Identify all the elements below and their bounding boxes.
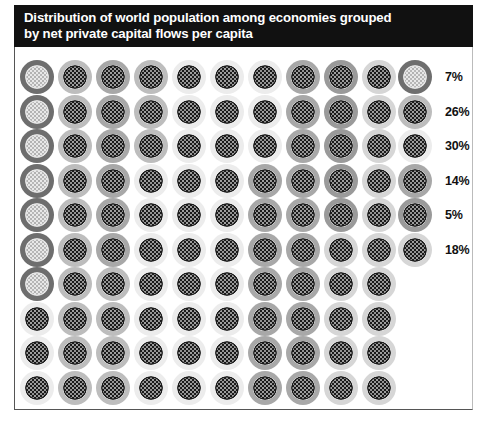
population-dot <box>286 60 320 94</box>
dot-core <box>25 341 49 365</box>
dot-cell <box>208 371 246 406</box>
population-dot <box>248 129 282 163</box>
legend-item-7pct[interactable]: 7% <box>398 60 480 95</box>
matrix-row <box>18 336 398 371</box>
legend-item-18pct[interactable]: 18% <box>398 233 480 268</box>
population-dot <box>58 371 92 405</box>
dot-cell <box>132 198 170 233</box>
dot-cell <box>246 95 284 130</box>
dot-cell <box>208 233 246 268</box>
dot-core <box>291 341 315 365</box>
dot-cell <box>284 198 322 233</box>
legend-item-5pct[interactable]: 5% <box>398 198 480 233</box>
dot-core <box>177 307 201 331</box>
dot-core <box>177 100 201 124</box>
dot-cell <box>18 60 56 95</box>
matrix-row <box>18 198 398 233</box>
dot-cell <box>170 60 208 95</box>
dot-cell <box>56 267 94 302</box>
dot-core <box>101 376 125 400</box>
dot-core <box>63 307 87 331</box>
dot-cell <box>132 267 170 302</box>
dot-cell <box>284 60 322 95</box>
population-dot <box>96 302 130 336</box>
population-dot <box>362 198 396 232</box>
population-dot <box>20 129 54 163</box>
dot-core <box>25 376 49 400</box>
dot-cell <box>132 233 170 268</box>
population-dot <box>324 233 358 267</box>
dot-cell <box>322 164 360 199</box>
dot-cell <box>360 164 398 199</box>
dot-core <box>25 169 49 193</box>
population-dot <box>172 233 206 267</box>
dot-cell <box>170 129 208 164</box>
legend-swatch-icon <box>398 129 432 163</box>
dot-core <box>215 203 239 227</box>
population-dot <box>96 336 130 370</box>
population-dot <box>362 302 396 336</box>
dot-cell <box>360 371 398 406</box>
dot-core <box>177 238 201 262</box>
dot-cell <box>18 95 56 130</box>
dot-core <box>63 341 87 365</box>
dot-cell <box>132 164 170 199</box>
matrix-row <box>18 129 398 164</box>
dot-cell <box>94 198 132 233</box>
dot-cell <box>208 129 246 164</box>
dot-core <box>25 134 49 158</box>
dot-core <box>403 169 427 193</box>
dot-cell <box>208 60 246 95</box>
dot-core <box>291 65 315 89</box>
population-dot <box>96 267 130 301</box>
dot-core <box>139 341 163 365</box>
dot-core <box>291 203 315 227</box>
dot-core <box>101 169 125 193</box>
dot-cell <box>18 164 56 199</box>
dot-cell <box>94 233 132 268</box>
population-dot <box>20 60 54 94</box>
dot-core <box>403 134 427 158</box>
dot-core <box>291 238 315 262</box>
title-banner: Distribution of world population among e… <box>14 5 473 47</box>
dot-core <box>291 134 315 158</box>
dot-core <box>177 203 201 227</box>
dot-core <box>329 65 353 89</box>
dot-cell <box>322 302 360 337</box>
population-dot <box>210 336 244 370</box>
dot-cell <box>56 198 94 233</box>
legend-item-26pct[interactable]: 26% <box>398 95 480 130</box>
dot-cell <box>94 371 132 406</box>
dot-core <box>253 134 277 158</box>
dot-core <box>367 376 391 400</box>
dot-core <box>101 65 125 89</box>
population-dot <box>58 302 92 336</box>
dot-core <box>139 307 163 331</box>
population-dot <box>134 233 168 267</box>
legend-item-14pct[interactable]: 14% <box>398 164 480 199</box>
dot-core <box>329 169 353 193</box>
dot-core <box>403 65 427 89</box>
legend-label: 14% <box>445 174 469 188</box>
dot-core <box>215 307 239 331</box>
dot-cell <box>18 198 56 233</box>
dot-cell <box>322 198 360 233</box>
legend-item-30pct[interactable]: 30% <box>398 129 480 164</box>
population-dot <box>362 267 396 301</box>
population-dot <box>398 129 432 163</box>
legend-label: 18% <box>445 243 469 257</box>
dot-core <box>253 307 277 331</box>
dot-core <box>329 341 353 365</box>
dot-core <box>139 100 163 124</box>
dot-cell <box>360 198 398 233</box>
population-dot <box>248 267 282 301</box>
dot-core <box>139 203 163 227</box>
dot-cell <box>94 267 132 302</box>
population-dot <box>96 198 130 232</box>
dot-core <box>367 203 391 227</box>
population-dot <box>96 129 130 163</box>
dot-core <box>403 238 427 262</box>
dot-core <box>253 65 277 89</box>
dot-core <box>253 238 277 262</box>
legend-swatch-icon <box>398 60 432 94</box>
